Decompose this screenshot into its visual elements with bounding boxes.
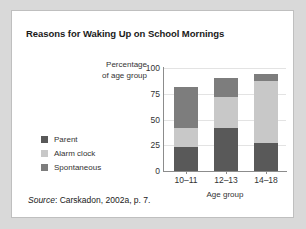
figure-panel: Reasons for Waking Up on School Mornings… (11, 10, 294, 218)
bar-segment[interactable] (174, 147, 198, 171)
source-citation: : Carskadon, 2002a, p. 7. (55, 195, 150, 205)
x-tick-label: 10–11 (164, 175, 208, 185)
legend-item[interactable]: Parent (41, 132, 141, 146)
y-tick-label: 25 (151, 140, 160, 150)
bar-stack[interactable] (174, 87, 198, 171)
x-tick-label: 14–18 (244, 175, 288, 185)
y-tick-label: 75 (151, 89, 160, 99)
x-tick-label: 12–13 (204, 175, 248, 185)
y-tick-label: 100 (146, 63, 160, 73)
x-tick-mark (186, 171, 187, 174)
bar-segment[interactable] (174, 128, 198, 148)
legend-item-label: Parent (54, 135, 78, 144)
legend-item-label: Spontaneous (54, 163, 101, 172)
bar-segment[interactable] (174, 87, 198, 128)
x-axis-title: Age group (164, 190, 286, 199)
plot-area: 025507510010–1112–1314–18Age group (164, 68, 286, 171)
source-note: Source: Carskadon, 2002a, p. 7. (28, 195, 150, 205)
legend-item-label: Alarm clock (54, 149, 95, 158)
x-axis-line (163, 171, 287, 172)
x-tick-mark (266, 171, 267, 174)
legend-swatch-icon (41, 136, 48, 143)
y-tick-label: 0 (155, 166, 160, 176)
bar-segment[interactable] (254, 143, 278, 171)
bar-stack[interactable] (254, 74, 278, 171)
gridline (164, 68, 286, 69)
chart-legend: ParentAlarm clockSpontaneous (41, 132, 141, 174)
legend-swatch-icon (41, 150, 48, 157)
legend-item[interactable]: Spontaneous (41, 160, 141, 174)
bar-stack[interactable] (214, 78, 238, 171)
y-axis-title-line-2: of age group (69, 70, 147, 81)
bar-segment[interactable] (254, 81, 278, 143)
legend-swatch-icon (41, 164, 48, 171)
figure-title: Reasons for Waking Up on School Mornings (26, 28, 224, 39)
x-tick-mark (226, 171, 227, 174)
y-axis-title: Percentage of age group (69, 59, 147, 81)
bar-segment[interactable] (214, 78, 238, 97)
bar-segment[interactable] (254, 74, 278, 81)
source-label: Source (28, 195, 55, 205)
bar-segment[interactable] (214, 97, 238, 128)
y-tick-label: 50 (151, 115, 160, 125)
legend-item[interactable]: Alarm clock (41, 146, 141, 160)
y-axis-title-line-1: Percentage (69, 59, 147, 70)
bar-segment[interactable] (214, 128, 238, 171)
